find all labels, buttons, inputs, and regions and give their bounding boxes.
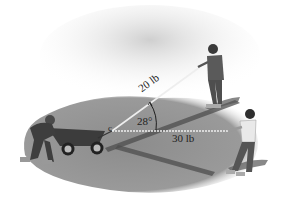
angle-label: 28°: [137, 115, 152, 127]
sky-haze: [40, 5, 260, 105]
scene: [0, 0, 287, 207]
force-30lb-label: 30 lb: [172, 132, 194, 144]
physics-figure: c 20 lb 28° 30 lb: [0, 0, 287, 207]
point-label: c: [108, 123, 112, 133]
